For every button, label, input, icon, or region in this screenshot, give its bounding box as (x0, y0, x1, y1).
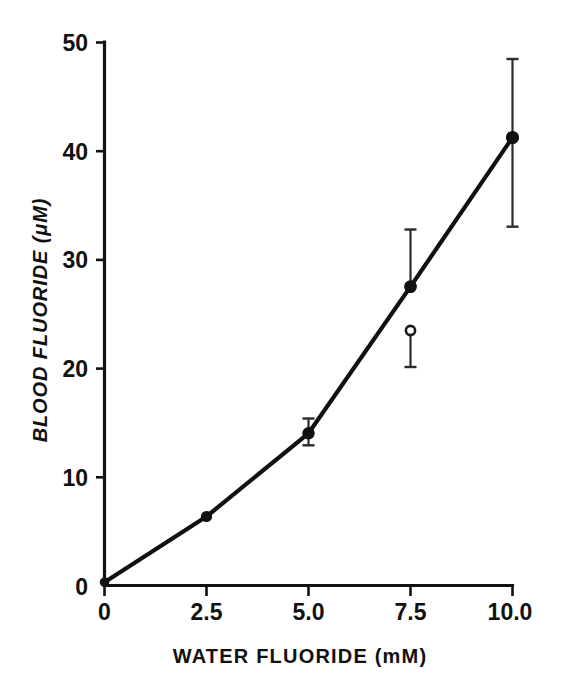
x-tick-label-0: 0 (98, 599, 111, 625)
y-tick-label-40: 40 (62, 139, 88, 165)
data-point-5-0-14-0 (303, 428, 314, 439)
y-tick-label-50: 50 (62, 30, 88, 56)
x-tick-label-5-0: 5.0 (293, 599, 325, 625)
data-point-open-7-5-23-5 (406, 326, 415, 335)
y-tick-label-30: 30 (62, 247, 88, 273)
data-point-0-0 (100, 578, 108, 586)
y-tick-label-10: 10 (62, 465, 88, 491)
x-tick-label-2-5: 2.5 (191, 599, 223, 625)
y-tick-label-20: 20 (62, 356, 88, 382)
data-point-7-5-27-5 (405, 281, 417, 293)
y-tick-label-0: 0 (75, 574, 88, 600)
y-axis-title: BLOOD FLUORIDE (μM) (29, 198, 51, 443)
data-point-2-5-6-3 (202, 512, 212, 522)
blood-fluoride-line-chart: 50 40 30 20 10 0 0 2.5 5.0 7.5 10.0 WATE… (0, 0, 563, 690)
data-point-10-0-41-2 (507, 132, 519, 144)
chart-figure: 50 40 30 20 10 0 0 2.5 5.0 7.5 10.0 WATE… (0, 0, 563, 690)
x-tick-label-10-0: 10.0 (488, 599, 533, 625)
x-tick-label-7-5: 7.5 (395, 599, 427, 625)
x-axis-title: WATER FLUORIDE (mM) (173, 645, 428, 667)
